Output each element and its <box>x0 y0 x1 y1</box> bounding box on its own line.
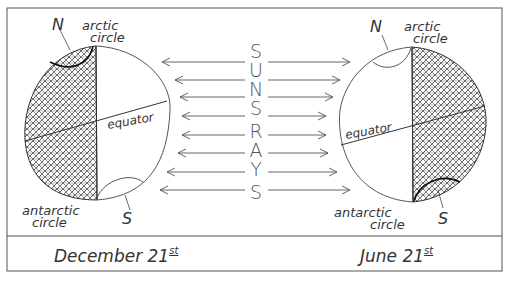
june-caption-text: June 21 <box>357 246 424 266</box>
left-north-label: N <box>52 15 64 34</box>
ray-right-head-top <box>329 168 337 172</box>
ray-left-head-bottom <box>162 62 170 66</box>
ray-left-head-top <box>167 168 175 172</box>
june-globe: N arctic circle equator antarctic circle… <box>334 17 486 232</box>
ray-left-head-bottom <box>175 80 183 84</box>
ray-letter: S <box>250 181 262 203</box>
left-south-label: S <box>122 209 132 228</box>
ray-right-head-bottom <box>320 153 328 157</box>
ray-right-head-bottom <box>318 116 326 120</box>
ray-left-head-top <box>182 112 190 116</box>
right-equator-label: equator <box>344 120 394 142</box>
ray-left-head-bottom <box>182 135 190 139</box>
ray-right-head-top <box>318 131 326 135</box>
right-south-label: S <box>438 209 448 228</box>
ray-letter: S <box>250 97 262 119</box>
december-globe: N arctic circle equator antarctic circle… <box>22 15 170 230</box>
right-north-pointer <box>382 35 388 50</box>
ray-left-head-bottom <box>160 190 168 194</box>
december-caption-text: December 21 <box>54 246 169 266</box>
ray-right-head-top <box>318 112 326 116</box>
ray-right-head-top <box>342 186 350 190</box>
ray-left-head-top <box>162 58 170 62</box>
ray-right-head-bottom <box>329 172 337 176</box>
ray-left-head-top <box>182 131 190 135</box>
ray-letter: Y <box>250 158 262 180</box>
ray-right-head-bottom <box>342 62 350 66</box>
ray-left-head-bottom <box>182 116 190 120</box>
ray-left-head-bottom <box>178 153 186 157</box>
left-antarctic-label-2: circle <box>32 215 67 230</box>
ray-right-head-top <box>320 149 328 153</box>
june-caption-suffix: st <box>424 245 434 256</box>
ray-right-head-bottom <box>342 190 350 194</box>
ray-right-head-top <box>342 58 350 62</box>
ray-left-head-top <box>178 149 186 153</box>
ray-left-head-top <box>180 93 188 97</box>
right-antarctic-label-2: circle <box>370 217 405 232</box>
ray-left-head-bottom <box>180 97 188 101</box>
june-caption: June 21st <box>357 245 434 266</box>
ray-left-head-top <box>160 186 168 190</box>
suns-rays-label: SUNSRAYS <box>249 40 263 203</box>
right-arctic-label-2: circle <box>413 31 448 46</box>
ray-right-head-bottom <box>332 80 340 84</box>
ray-right-head-top <box>325 93 333 97</box>
left-night-side <box>25 46 97 200</box>
ray-left-head-bottom <box>167 172 175 176</box>
ray-right-head-top <box>332 76 340 80</box>
ray-left-head-top <box>175 76 183 80</box>
ray-right-head-bottom <box>318 135 326 139</box>
left-south-pointer <box>125 195 130 210</box>
seasons-diagram: N arctic circle equator antarctic circle… <box>0 0 510 286</box>
ray-right-head-bottom <box>325 97 333 101</box>
december-caption-suffix: st <box>169 245 179 256</box>
left-arctic-label-2: circle <box>90 30 125 45</box>
right-north-label: N <box>370 17 382 36</box>
december-caption: December 21st <box>54 245 179 266</box>
left-equator-label: equator <box>106 110 156 132</box>
